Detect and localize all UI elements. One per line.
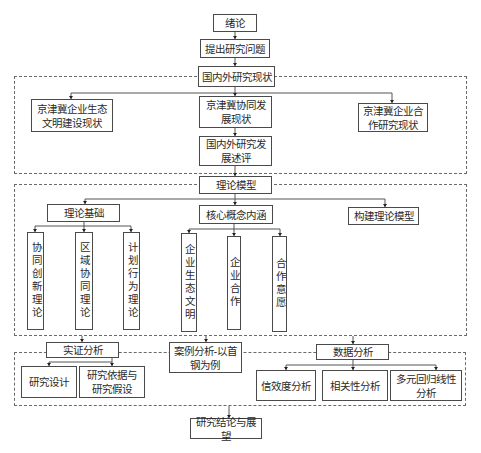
node-intro: 绪论: [213, 14, 257, 32]
node-regression: 多元回归线性 分析: [390, 370, 462, 401]
node-case: 案例分析-以首 钢为例: [169, 342, 242, 373]
node-theory-2: 区域协同理论: [75, 232, 93, 330]
node-label: 核心概念内涵: [206, 208, 266, 222]
node-reliability: 信效度分析: [256, 370, 316, 401]
node-label: 协同创新理论: [28, 242, 43, 320]
node-label: 区域协同理论: [77, 242, 92, 320]
node-problem: 提出研究问题: [200, 39, 270, 58]
node-label: 数据分析: [333, 345, 373, 359]
node-concept-2: 企业合作: [227, 236, 241, 330]
node-theory-model: 理论模型: [199, 176, 272, 194]
node-label: 国内外研究现状: [202, 70, 272, 84]
node-label: 企业生态文明: [182, 244, 197, 322]
node-theory-1: 协同创新理论: [27, 232, 44, 330]
node-label: 计划行为理论: [124, 242, 139, 320]
node-label: 理论模型: [216, 178, 256, 192]
node-label: 京津冀企业合 作研究现状: [363, 104, 423, 132]
node-label: 合作意愿: [272, 258, 287, 310]
node-label: 京津冀协同发 展现状: [206, 98, 266, 126]
node-label: 信效度分析: [261, 379, 311, 393]
node-label: 企业合作: [227, 257, 242, 309]
node-label: 多元回归线性 分析: [396, 372, 456, 400]
node-concept-3: 合作意愿: [272, 236, 287, 332]
node-design: 研究设计: [21, 366, 77, 398]
node-label: 构建理论模型: [354, 209, 414, 223]
node-label: 实证分析: [63, 343, 103, 357]
node-conclusion: 研究结论与展望: [190, 418, 262, 439]
node-theory-basis: 理论基础: [47, 204, 120, 222]
node-label: 国内外研究发 展述评: [206, 137, 266, 165]
node-status-eco: 京津冀企业生态 文明建设现状: [31, 99, 113, 132]
node-label: 提出研究问题: [205, 42, 265, 56]
node-label: 相关性分析: [330, 379, 380, 393]
node-label: 研究设计: [29, 375, 69, 389]
node-concept-1: 企业生态文明: [181, 233, 197, 332]
node-build-model: 构建理论模型: [348, 207, 419, 225]
node-label: 理论基础: [64, 206, 104, 220]
node-label: 研究结论与展望: [193, 415, 259, 443]
node-status-enterprise-coop: 京津冀企业合 作研究现状: [358, 103, 428, 132]
node-label: 研究依据与 研究假设: [87, 368, 137, 396]
node-label: 绪论: [225, 16, 245, 30]
node-review: 国内外研究发 展述评: [199, 136, 272, 166]
node-correlation: 相关性分析: [322, 370, 388, 401]
node-basis-hypothesis: 研究依据与 研究假设: [79, 366, 145, 398]
node-status-coop-dev: 京津冀协同发 展现状: [199, 96, 272, 128]
node-data-analysis: 数据分析: [316, 344, 389, 360]
node-label: 案例分析-以首 钢为例: [174, 344, 238, 372]
node-core-concepts: 核心概念内涵: [199, 205, 273, 224]
node-label: 京津冀企业生态 文明建设现状: [37, 102, 107, 130]
node-status: 国内外研究现状: [198, 66, 275, 87]
node-empirical: 实证分析: [46, 342, 119, 358]
node-theory-3: 计划行为理论: [123, 232, 140, 330]
